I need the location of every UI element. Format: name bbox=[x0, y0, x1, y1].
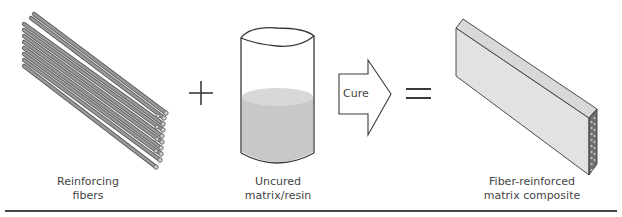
fibers-label-line2: fibers bbox=[57, 189, 119, 203]
composite-label: Fiber-reinforced matrix composite bbox=[484, 175, 580, 203]
equals-icon bbox=[406, 89, 431, 98]
fibers-label: Reinforcing fibers bbox=[57, 175, 119, 203]
fibers-label-line1: Reinforcing bbox=[57, 175, 119, 189]
composite-label-line1: Fiber-reinforced bbox=[484, 175, 580, 189]
composite-diagram: Cure Reinforcing fibers Uncured matrix/r… bbox=[0, 0, 622, 217]
composite-block-icon bbox=[456, 19, 597, 175]
composite-label-line2: matrix composite bbox=[484, 189, 580, 203]
bottom-divider bbox=[5, 210, 617, 212]
cure-label: Cure bbox=[343, 88, 369, 100]
plus-icon bbox=[189, 81, 213, 105]
fiber-bundle-icon bbox=[24, 14, 168, 169]
resin-cylinder-icon bbox=[241, 28, 314, 163]
resin-label: Uncured matrix/resin bbox=[245, 175, 311, 203]
resin-label-line2: matrix/resin bbox=[245, 189, 311, 203]
resin-label-line1: Uncured bbox=[245, 175, 311, 189]
